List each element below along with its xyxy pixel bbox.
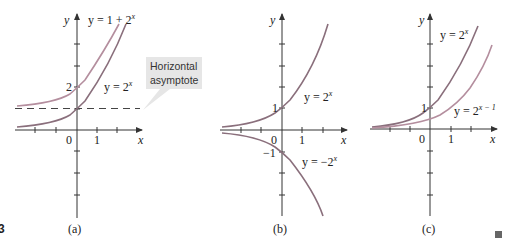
- caption-a: (a): [68, 222, 81, 236]
- svg-text:0: 0: [271, 133, 277, 147]
- curve2-label: y = −2x: [302, 154, 338, 169]
- curve1-label: y = 2x: [440, 27, 469, 42]
- svg-text:1: 1: [299, 133, 305, 147]
- ticks: [35, 44, 117, 195]
- panel-c: y y = 2x y = 2x − 1 1 0 1 x (c): [370, 13, 497, 236]
- callout: Horizontal asymptote: [143, 57, 202, 110]
- curve2-label: y = 2x: [104, 79, 133, 94]
- origin-label: 0: [66, 133, 72, 147]
- svg-text:0: 0: [419, 132, 425, 146]
- svg-text:Horizontal: Horizontal: [150, 60, 197, 72]
- svg-text:1: 1: [421, 101, 427, 115]
- svg-text:1: 1: [272, 101, 278, 115]
- caption-b: (b): [273, 222, 287, 236]
- svg-text:asymptote: asymptote: [150, 74, 199, 86]
- panel-a: y y = 1 + 2x y = 2x 2 0 1 x Horizontal a…: [15, 12, 202, 236]
- curve2-label: y = 2x − 1: [454, 103, 496, 118]
- figure: y y = 1 + 2x y = 2x 2 0 1 x Horizontal a…: [0, 0, 515, 249]
- panel-b: y y = 2x y = −2x 1 −1 0 1 x (b): [220, 13, 347, 236]
- x-tick-1: 1: [94, 133, 100, 147]
- svg-text:y: y: [269, 13, 276, 27]
- curve1-label: y = 1 + 2x: [88, 12, 136, 27]
- end-mark-icon: [495, 231, 502, 238]
- svg-text:y: y: [418, 13, 425, 27]
- svg-text:x: x: [340, 133, 347, 147]
- figure-marker: 3: [0, 222, 5, 236]
- curve1-label: y = 2x: [304, 89, 333, 104]
- x-axis-label: x: [137, 133, 144, 147]
- svg-text:x: x: [489, 132, 496, 146]
- caption-c: (c): [422, 222, 435, 236]
- svg-text:1: 1: [448, 132, 454, 146]
- y-tick-2: 2: [66, 80, 72, 94]
- svg-text:−1: −1: [263, 146, 276, 160]
- y-axis-label: y: [63, 13, 70, 27]
